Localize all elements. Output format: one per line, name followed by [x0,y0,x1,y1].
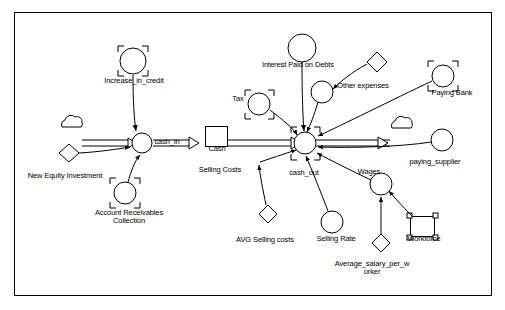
cash-out-label: cash_out [280,169,328,177]
link-payingsupplier-to-cashout [318,142,431,147]
converter-selling-rate [321,211,343,233]
workforce-label: Workforce [398,235,450,243]
converter-tax [248,93,270,115]
diamond-avg-selling-costs [259,205,277,223]
flow-cash-out [294,132,316,154]
converter-account-receivables-collection [114,182,136,204]
diamond-average-salary-per-worker [372,234,390,252]
converter-paying-bank [432,65,454,87]
link-sellingrate-to-cashout [306,156,328,211]
new-equity-investment-label: New Equity Investment [14,172,116,180]
interest-paid-on-debts-label: Interest Paid on Debts [250,61,346,69]
increase-in-credit-label: Increase_in_credit [95,77,173,85]
cloud-right-icon [391,116,412,128]
converter-interest-paid-on-debts [288,34,316,62]
diamond-new-equity-investment [59,144,79,162]
cash-in-label: cash_in [147,138,187,146]
cloud-left-icon [61,115,82,127]
diagram-svg [0,0,505,310]
wages-label: Wages [350,168,388,176]
tax-label: Tax [226,95,250,103]
link-equity-to-cashin [79,147,130,153]
avg-selling-costs-label: AVG Selling costs [226,236,304,244]
diamond-other-expenses [367,52,387,72]
average-salary-per-worker-label: Average_salary_per_w orker [324,260,420,277]
diagram-border [15,13,492,296]
other-expenses-label: Other expenses [328,82,398,90]
paying-supplier-label: paying_supplier [400,158,470,166]
converter-paying-supplier [431,129,453,151]
converter-increase-in-credit [120,48,146,74]
cash-label: Cash [202,145,232,153]
link-avg-to-sellingcosts [259,165,266,205]
selling-costs-label: Selling Costs [189,166,251,174]
selling-rate-label: Selling Rate [308,235,364,243]
link-tax-to-cashout [270,110,297,135]
link-workforce-to-wages [389,191,412,216]
diagram-canvas: Increase_in_credit Interest Paid on Debt… [0,0,505,310]
paying-bank-label: Paying Bank [422,89,482,97]
account-receivables-collection-label: Account Receivables Collection [86,209,172,226]
link-interest-to-cashout [302,62,304,131]
